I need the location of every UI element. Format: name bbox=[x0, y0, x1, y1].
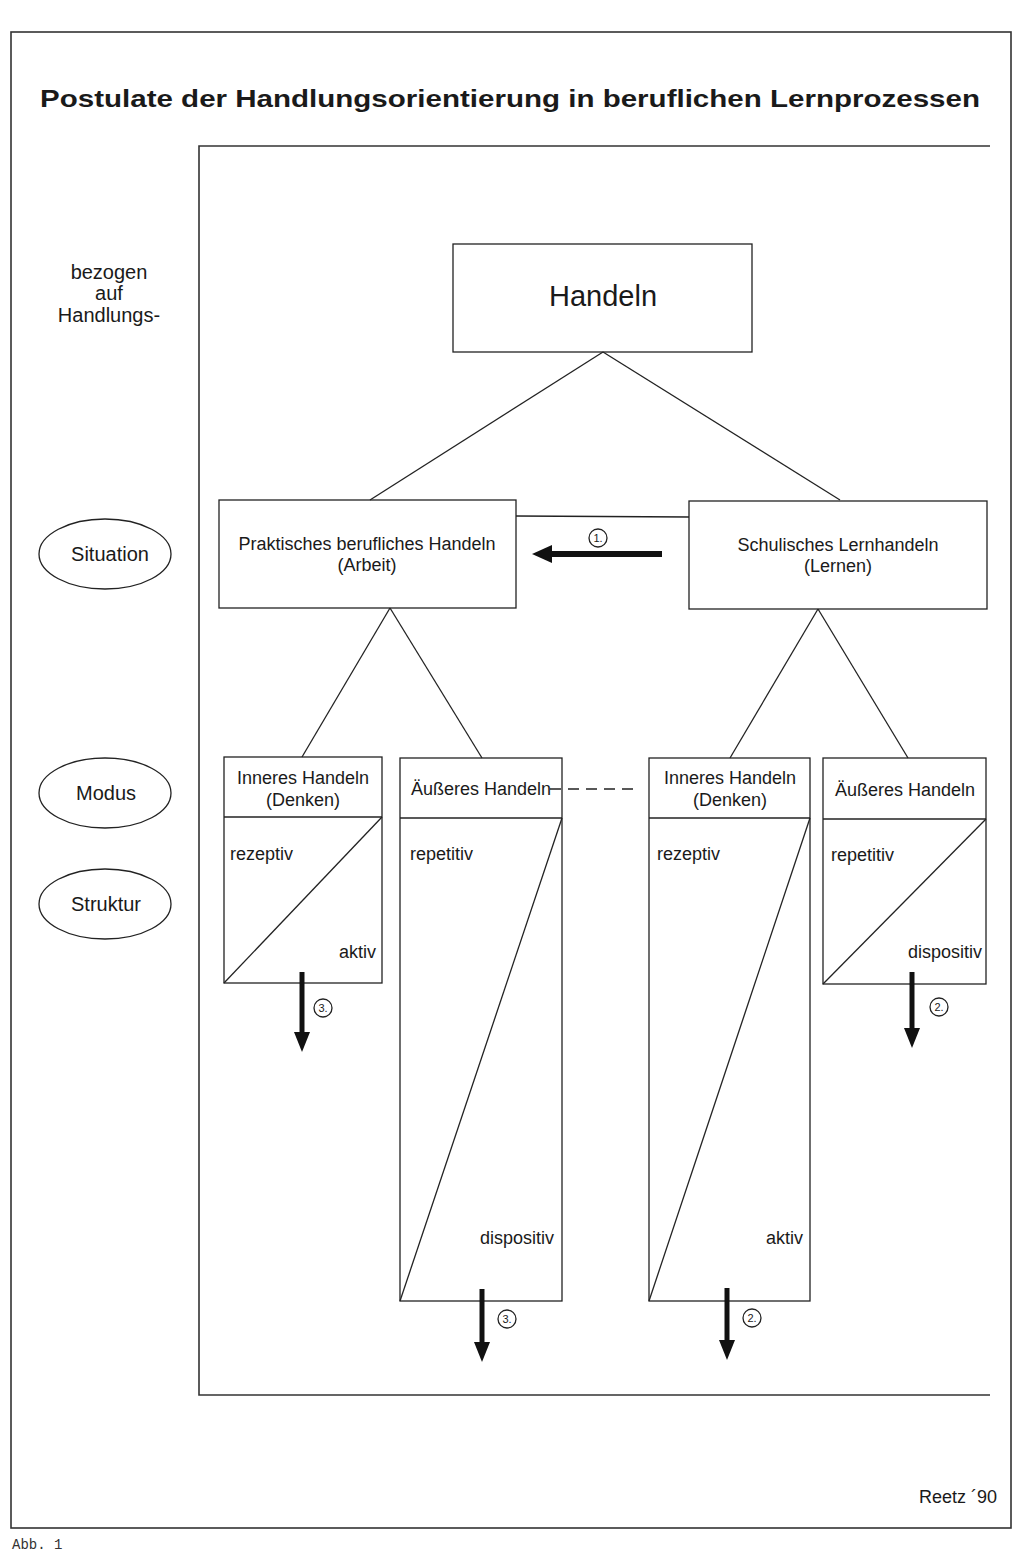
connector-line bbox=[302, 608, 390, 757]
mode-node-inneres-arbeit: Inneres Handeln (Denken) rezeptiv aktiv bbox=[224, 757, 382, 983]
side-header-line-2: auf bbox=[95, 282, 123, 304]
mode-label-line-2: (Denken) bbox=[693, 790, 767, 810]
structure-top-label: repetitiv bbox=[410, 844, 473, 864]
root-node-handeln: Handeln bbox=[453, 244, 752, 352]
arrow-head-icon bbox=[904, 1028, 920, 1048]
side-label-struktur: Struktur bbox=[39, 869, 171, 939]
step-marker-label: 3. bbox=[502, 1313, 511, 1325]
situation-node-lernen: Schulisches Lernhandeln (Lernen) bbox=[689, 501, 987, 609]
mode-label-line-2: (Denken) bbox=[266, 790, 340, 810]
structure-bottom-label: aktiv bbox=[339, 942, 376, 962]
side-label-situation: Situation bbox=[39, 519, 171, 589]
structure-top-label: repetitiv bbox=[831, 845, 894, 865]
structure-top-label: rezeptiv bbox=[230, 844, 293, 864]
diagram-canvas: Postulate der Handlungsorientierung in b… bbox=[0, 0, 1036, 1551]
node-label-line-1: Schulisches Lernhandeln bbox=[737, 535, 938, 555]
structure-top-label: rezeptiv bbox=[657, 844, 720, 864]
mode-node-inneres-lernen: Inneres Handeln (Denken) rezeptiv aktiv bbox=[649, 758, 810, 1301]
connector-line bbox=[370, 352, 603, 500]
connector-line bbox=[818, 609, 908, 758]
side-label-text: Struktur bbox=[71, 893, 141, 915]
credit-text: Reetz ´90 bbox=[919, 1487, 997, 1507]
node-box bbox=[219, 500, 516, 608]
mode-node-aeusseres-arbeit: Äußeres Handeln repetitiv dispositiv bbox=[400, 758, 562, 1301]
arrow-2-down-aktiv: 2. bbox=[719, 1288, 761, 1360]
structure-bottom-label: aktiv bbox=[766, 1228, 803, 1248]
node-box bbox=[400, 758, 562, 1301]
side-header: bezogen auf Handlungs- bbox=[58, 261, 160, 326]
arrow-head-icon bbox=[532, 545, 552, 563]
connector-line bbox=[603, 352, 840, 500]
arrow-3-down-dispositiv: 3. bbox=[474, 1289, 516, 1362]
mode-label-line-1: Inneres Handeln bbox=[237, 768, 369, 788]
step-marker-label: 3. bbox=[318, 1002, 327, 1014]
side-label-text: Situation bbox=[71, 543, 149, 565]
node-label: Handeln bbox=[549, 280, 657, 312]
situation-node-arbeit: Praktisches berufliches Handeln (Arbeit) bbox=[219, 500, 516, 608]
node-label-line-1: Praktisches berufliches Handeln bbox=[238, 534, 495, 554]
step-marker-label: 2. bbox=[747, 1312, 756, 1324]
node-box bbox=[689, 501, 987, 609]
node-box bbox=[649, 758, 810, 1301]
side-label-text: Modus bbox=[76, 782, 136, 804]
node-label-line-2: (Lernen) bbox=[804, 556, 872, 576]
arrow-3-down-inneres: 3. bbox=[294, 972, 332, 1052]
node-label-line-2: (Arbeit) bbox=[337, 555, 396, 575]
connector-line bbox=[390, 608, 482, 758]
diagram-title: Postulate der Handlungsorientierung in b… bbox=[40, 85, 980, 112]
step-marker-label: 2. bbox=[934, 1001, 943, 1013]
arrow-head-icon bbox=[294, 1032, 310, 1052]
mode-label-line-1: Äußeres Handeln bbox=[835, 780, 975, 800]
arrow-1-left: 1. bbox=[532, 529, 662, 563]
mode-node-aeusseres-lernen: Äußeres Handeln repetitiv dispositiv bbox=[823, 758, 986, 984]
connector-line bbox=[730, 609, 818, 758]
figure-caption: Abb. 1 bbox=[12, 1537, 62, 1551]
arrow-head-icon bbox=[474, 1342, 490, 1362]
mode-label-line-1: Inneres Handeln bbox=[664, 768, 796, 788]
structure-bottom-label: dispositiv bbox=[908, 942, 982, 962]
step-marker-label: 1. bbox=[593, 532, 602, 544]
side-label-modus: Modus bbox=[39, 758, 171, 828]
structure-bottom-label: dispositiv bbox=[480, 1228, 554, 1248]
situation-link-line bbox=[516, 516, 689, 517]
arrow-head-icon bbox=[719, 1340, 735, 1360]
side-header-line-3: Handlungs- bbox=[58, 304, 160, 326]
side-header-line-1: bezogen bbox=[71, 261, 148, 283]
mode-label-line-1: Äußeres Handeln bbox=[411, 779, 551, 799]
